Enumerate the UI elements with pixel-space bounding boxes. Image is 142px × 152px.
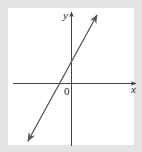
origin-label: 0	[64, 85, 70, 97]
y-axis-label: y	[62, 9, 68, 21]
x-axis-label: x	[130, 83, 136, 95]
coordinate-graph: y x 0	[0, 0, 142, 152]
graph-line	[28, 15, 97, 141]
